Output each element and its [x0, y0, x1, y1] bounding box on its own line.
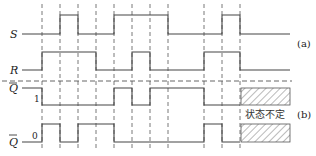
undefined-region-q — [241, 88, 290, 105]
part-label-a: (a) — [297, 38, 311, 49]
label-q: Q — [9, 82, 18, 95]
timing-diagram: S R Q 1 Q 0 (a) (b) 状态不定 — [0, 0, 316, 156]
level-q-bar: 0 — [32, 131, 38, 141]
undefined-region-q-bar — [241, 124, 290, 142]
waveform-q — [22, 88, 240, 105]
waveform-s — [22, 15, 290, 34]
label-q-bar: Q — [9, 136, 18, 149]
label-s: S — [10, 28, 18, 41]
waveform-q-bar — [22, 124, 240, 142]
undefined-state-label: 状态不定 — [245, 108, 285, 120]
part-label-b: (b) — [297, 109, 311, 120]
waveform-r — [22, 52, 290, 70]
time-markers — [42, 4, 240, 150]
label-r: R — [9, 64, 18, 77]
level-q: 1 — [34, 94, 40, 104]
